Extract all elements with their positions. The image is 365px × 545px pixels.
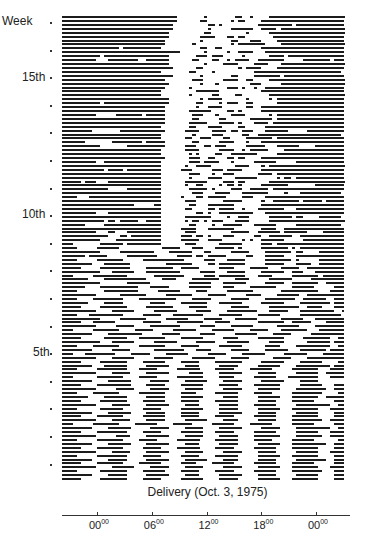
- sleep-segment: [269, 235, 292, 237]
- sleep-segment: [127, 169, 161, 171]
- sleep-segment: [219, 208, 234, 210]
- sleep-segment: [215, 455, 238, 457]
- x-tick-label: 1800: [253, 518, 273, 531]
- sleep-segment: [238, 157, 245, 159]
- sleep-segment: [173, 314, 203, 316]
- sleep-segment: [139, 368, 158, 370]
- sleep-segment: [254, 161, 277, 163]
- sleep-segment: [181, 169, 192, 171]
- sleep-segment: [185, 365, 200, 367]
- sleep-segment: [120, 220, 139, 222]
- sleep-segment: [215, 145, 226, 147]
- sleep-segment: [334, 447, 344, 449]
- sleep-segment: [108, 212, 161, 214]
- sleep-segment: [143, 415, 166, 417]
- sleep-segment: [169, 251, 192, 253]
- sleep-segment: [296, 161, 345, 163]
- sleep-segment: [254, 435, 280, 437]
- sleep-segment: [154, 341, 177, 343]
- sleep-segment: [212, 220, 223, 222]
- sleep-segment: [231, 357, 250, 359]
- sleep-segment: [235, 165, 250, 167]
- sleep-segment: [258, 134, 342, 136]
- x-axis-label: Delivery (Oct. 3, 1975): [0, 485, 365, 499]
- sleep-segment: [62, 427, 92, 429]
- sleep-segment: [89, 255, 108, 257]
- sleep-segment: [261, 28, 276, 30]
- sleep-segment: [277, 118, 345, 120]
- sleep-segment: [219, 376, 234, 378]
- sleep-segment: [200, 83, 203, 85]
- sleep-segment: [62, 94, 161, 96]
- sleep-segment: [85, 181, 96, 183]
- sleep-segment: [284, 228, 344, 230]
- sleep-segment: [235, 318, 258, 320]
- sleep-segment: [238, 20, 245, 22]
- sleep-segment: [231, 231, 250, 233]
- sleep-segment: [97, 447, 123, 449]
- sleep-segment: [150, 286, 169, 288]
- sleep-segment: [196, 67, 203, 69]
- sleep-segment: [112, 419, 131, 421]
- sleep-segment: [330, 431, 344, 433]
- sleep-segment: [246, 106, 253, 108]
- sleep-segment: [334, 462, 344, 464]
- sleep-segment: [254, 75, 280, 77]
- sleep-segment: [143, 314, 162, 316]
- sleep-segment: [62, 275, 73, 277]
- sleep-segment: [296, 404, 330, 406]
- sleep-segment: [62, 368, 77, 370]
- sleep-segment: [303, 200, 322, 202]
- sleep-segment: [143, 361, 166, 363]
- sleep-segment: [166, 294, 192, 296]
- sleep-segment: [311, 278, 344, 280]
- sleep-segment: [231, 28, 254, 30]
- sleep-segment: [208, 228, 234, 230]
- sleep-segment: [296, 474, 319, 476]
- sleep-segment: [296, 372, 319, 374]
- sleep-segment: [281, 63, 345, 65]
- sleep-segment: [62, 353, 73, 355]
- sleep-segment: [261, 90, 344, 92]
- sleep-segment: [319, 329, 345, 331]
- sleep-segment: [143, 447, 162, 449]
- sleep-segment: [258, 173, 273, 175]
- y-week-tick: [50, 22, 52, 24]
- sleep-segment: [62, 380, 92, 382]
- sleep-segment: [62, 126, 161, 128]
- sleep-segment: [334, 298, 344, 300]
- sleep-segment: [265, 263, 284, 265]
- sleep-segment: [261, 302, 284, 304]
- sleep-segment: [238, 51, 253, 53]
- sleep-segment: [200, 271, 215, 273]
- sleep-segment: [215, 447, 234, 449]
- sleep-segment: [181, 196, 184, 198]
- sleep-segment: [235, 59, 250, 61]
- sleep-segment: [292, 282, 318, 284]
- sleep-segment: [334, 384, 344, 386]
- x-tick: [207, 512, 208, 516]
- sleep-segment: [62, 55, 100, 57]
- sleep-segment: [104, 396, 127, 398]
- sleep-segment: [238, 126, 245, 128]
- sleep-segment: [108, 59, 138, 61]
- sleep-segment: [143, 455, 162, 457]
- sleep-segment: [292, 443, 326, 445]
- sleep-segment: [326, 200, 344, 202]
- y-week-tick: [50, 298, 52, 300]
- sleep-segment: [62, 83, 169, 85]
- sleep-segment: [296, 263, 311, 265]
- sleep-segment: [303, 239, 344, 241]
- sleep-segment: [208, 177, 223, 179]
- sleep-segment: [292, 447, 318, 449]
- sleep-segment: [196, 310, 211, 312]
- sleep-segment: [208, 106, 223, 108]
- sleep-segment: [261, 200, 264, 202]
- sleep-segment: [269, 341, 284, 343]
- sleep-segment: [265, 130, 288, 132]
- sleep-segment: [292, 247, 295, 249]
- sleep-segment: [108, 427, 131, 429]
- sleep-segment: [265, 251, 291, 253]
- sleep-segment: [219, 314, 242, 316]
- sleep-segment: [219, 435, 238, 437]
